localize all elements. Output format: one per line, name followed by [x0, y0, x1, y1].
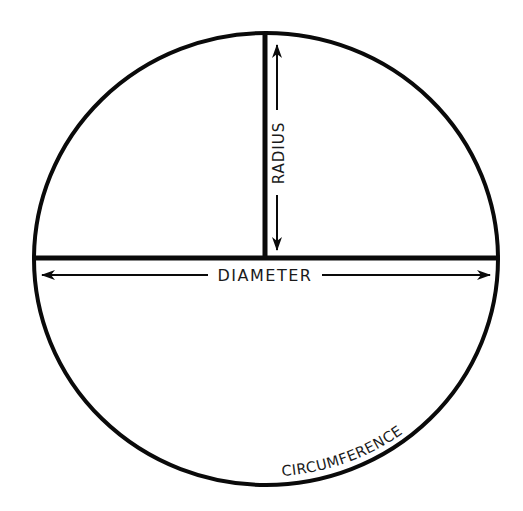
radius-label: RADIUS [270, 122, 288, 185]
circle-diagram: RADIUS DIAMETER CIRCUMFERENCE [0, 0, 523, 511]
diameter-label: DIAMETER [218, 266, 313, 285]
